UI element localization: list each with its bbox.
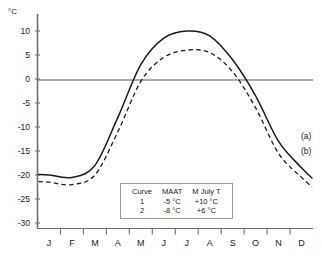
- legend-row: 1-5 °C+10 °C: [127, 197, 226, 206]
- legend-cell: +6 °C: [187, 206, 225, 215]
- legend-cell: +10 °C: [187, 197, 225, 206]
- curve-a-solid: [39, 31, 313, 178]
- legend-cell: -8 °C: [157, 206, 187, 215]
- legend-body: 1-5 °C+10 °C2-8 °C+6 °C: [127, 197, 226, 215]
- legend-table: Curve MAAT M July T 1-5 °C+10 °C2-8 °C+6…: [127, 187, 226, 215]
- x-axis-ticks: [60, 229, 290, 235]
- legend-header-row: Curve MAAT M July T: [127, 187, 226, 197]
- curve-a-label: (a): [301, 131, 311, 141]
- plot-area: [0, 0, 322, 265]
- temperature-curve-chart: °C 1050-5-10-15-20-25-30 JFMAMJJASOND (a…: [0, 0, 322, 265]
- curve-b-label: (b): [301, 146, 311, 156]
- legend-header-curve: Curve: [127, 187, 157, 197]
- legend-cell: 1: [127, 197, 157, 206]
- legend-row: 2-8 °C+6 °C: [127, 206, 226, 215]
- legend-cell: -5 °C: [157, 197, 187, 206]
- legend-header-maat: MAAT: [157, 187, 187, 197]
- legend-cell: 2: [127, 206, 157, 215]
- legend-box: Curve MAAT M July T 1-5 °C+10 °C2-8 °C+6…: [120, 183, 233, 219]
- legend-header-july: M July T: [187, 187, 225, 197]
- curve-b-dashed: [39, 50, 313, 187]
